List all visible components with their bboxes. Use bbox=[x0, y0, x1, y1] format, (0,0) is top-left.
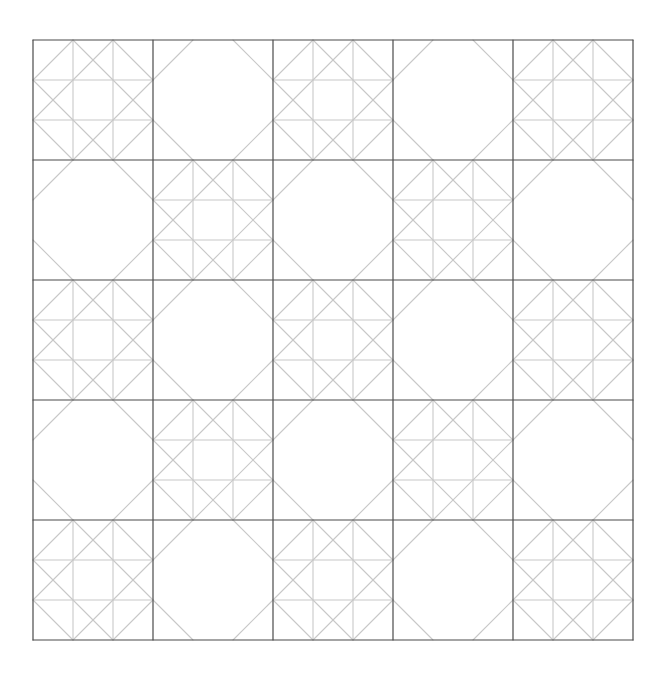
block-borders bbox=[33, 40, 633, 640]
corner-cut-line bbox=[113, 280, 153, 320]
quilt-block-star bbox=[273, 40, 393, 160]
quilt-block-star bbox=[513, 40, 633, 160]
quilt-block-octagon bbox=[153, 280, 273, 400]
corner-cut-line bbox=[113, 520, 153, 560]
corner-cut-line bbox=[113, 480, 153, 520]
quilt-block-star bbox=[153, 400, 273, 520]
corner-cut-line bbox=[353, 520, 393, 560]
corner-cut-line bbox=[33, 40, 73, 80]
corner-cut-line bbox=[393, 160, 433, 200]
quilt-block-star bbox=[393, 400, 513, 520]
corner-cut-line bbox=[513, 240, 553, 280]
corner-cut-line bbox=[593, 160, 633, 200]
corner-cut-line bbox=[593, 40, 633, 80]
corner-cut-line bbox=[153, 400, 193, 440]
quilt-block-octagon bbox=[33, 160, 153, 280]
corner-cut-line bbox=[153, 600, 193, 640]
corner-cut-line bbox=[473, 400, 513, 440]
quilt-block-octagon bbox=[393, 280, 513, 400]
corner-cut-line bbox=[153, 40, 193, 80]
corner-cut-line bbox=[473, 360, 513, 400]
corner-cut-line bbox=[113, 240, 153, 280]
quilt-block-star bbox=[153, 160, 273, 280]
corner-cut-line bbox=[273, 240, 313, 280]
corner-cut-line bbox=[393, 480, 433, 520]
corner-cut-line bbox=[353, 280, 393, 320]
corner-cut-line bbox=[153, 360, 193, 400]
corner-cut-line bbox=[33, 240, 73, 280]
quilt-block-star bbox=[33, 40, 153, 160]
corner-cut-line bbox=[273, 400, 313, 440]
quilt-block-octagon bbox=[513, 400, 633, 520]
corner-cut-line bbox=[513, 120, 553, 160]
corner-cut-line bbox=[353, 160, 393, 200]
corner-cut-line bbox=[353, 600, 393, 640]
corner-cut-line bbox=[233, 480, 273, 520]
corner-cut-line bbox=[153, 120, 193, 160]
corner-cut-line bbox=[233, 600, 273, 640]
corner-cut-line bbox=[353, 40, 393, 80]
corner-cut-line bbox=[353, 120, 393, 160]
quilt-block-octagon bbox=[273, 160, 393, 280]
corner-cut-line bbox=[393, 400, 433, 440]
quilt-block-star bbox=[273, 280, 393, 400]
corner-cut-line bbox=[513, 480, 553, 520]
quilt-block-octagon bbox=[153, 40, 273, 160]
corner-cut-line bbox=[113, 360, 153, 400]
corner-cut-line bbox=[33, 400, 73, 440]
corner-cut-line bbox=[273, 600, 313, 640]
corner-cut-line bbox=[393, 600, 433, 640]
corner-cut-line bbox=[393, 40, 433, 80]
corner-cut-line bbox=[153, 160, 193, 200]
corner-cut-line bbox=[33, 160, 73, 200]
corner-cut-line bbox=[473, 160, 513, 200]
corner-cut-line bbox=[593, 120, 633, 160]
quilt-pattern-diagram bbox=[0, 0, 666, 682]
corner-cut-line bbox=[33, 120, 73, 160]
corner-cut-line bbox=[33, 520, 73, 560]
corner-cut-line bbox=[513, 520, 553, 560]
quilt-block-star bbox=[513, 520, 633, 640]
corner-cut-line bbox=[593, 400, 633, 440]
corner-cut-line bbox=[113, 40, 153, 80]
corner-cut-line bbox=[593, 360, 633, 400]
corner-cut-line bbox=[393, 280, 433, 320]
corner-cut-line bbox=[513, 400, 553, 440]
corner-cut-line bbox=[393, 240, 433, 280]
corner-cut-line bbox=[513, 280, 553, 320]
corner-cut-line bbox=[473, 240, 513, 280]
quilt-block-star bbox=[33, 280, 153, 400]
corner-cut-line bbox=[353, 480, 393, 520]
pattern-lines bbox=[33, 40, 633, 640]
corner-cut-line bbox=[513, 40, 553, 80]
quilt-block-octagon bbox=[153, 520, 273, 640]
corner-cut-line bbox=[153, 480, 193, 520]
corner-cut-line bbox=[393, 360, 433, 400]
quilt-block-star bbox=[393, 160, 513, 280]
corner-cut-line bbox=[593, 240, 633, 280]
corner-cut-line bbox=[113, 600, 153, 640]
corner-cut-line bbox=[233, 240, 273, 280]
corner-cut-line bbox=[233, 400, 273, 440]
quilt-block-octagon bbox=[393, 40, 513, 160]
quilt-block-octagon bbox=[513, 160, 633, 280]
quilt-block-star bbox=[513, 280, 633, 400]
corner-cut-line bbox=[513, 600, 553, 640]
corner-cut-line bbox=[33, 360, 73, 400]
corner-cut-line bbox=[273, 120, 313, 160]
corner-cut-line bbox=[353, 360, 393, 400]
corner-cut-line bbox=[113, 160, 153, 200]
corner-cut-line bbox=[153, 280, 193, 320]
corner-cut-line bbox=[473, 120, 513, 160]
corner-cut-line bbox=[33, 600, 73, 640]
corner-cut-line bbox=[153, 240, 193, 280]
corner-cut-line bbox=[153, 520, 193, 560]
quilt-block-star bbox=[273, 520, 393, 640]
corner-cut-line bbox=[273, 480, 313, 520]
corner-cut-line bbox=[513, 360, 553, 400]
corner-cut-line bbox=[513, 160, 553, 200]
corner-cut-line bbox=[393, 520, 433, 560]
corner-cut-line bbox=[473, 520, 513, 560]
corner-cut-line bbox=[593, 280, 633, 320]
corner-cut-line bbox=[33, 480, 73, 520]
